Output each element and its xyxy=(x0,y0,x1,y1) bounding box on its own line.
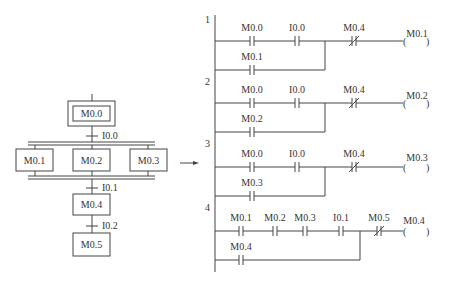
rung-number: 1 xyxy=(205,14,210,25)
branch-label: M0.3 xyxy=(241,177,262,188)
coil-label: M0.1 xyxy=(406,28,427,39)
sfc-to-ladder-diagram: M0.0 I0.0 M0.1 M0.2 M0.3 I0.1 M0.4 I0.2 … xyxy=(0,0,449,283)
nc-contact-label: M0.5 xyxy=(368,212,389,223)
coil-label: M0.2 xyxy=(406,90,427,101)
contact-label: I0.0 xyxy=(289,148,305,159)
coil-open: ( xyxy=(403,162,407,174)
branch-label: M0.1 xyxy=(241,51,262,62)
step-label: M0.3 xyxy=(138,155,159,166)
coil-open: ( xyxy=(403,226,407,238)
nc-contact-label: M0.4 xyxy=(343,84,364,95)
contact-label: M0.0 xyxy=(241,22,262,33)
coil-close: ) xyxy=(426,162,429,174)
rung-2: 2 M0.0 I0.0 M0.4 ( ) M0.2 M0.2 xyxy=(205,76,429,137)
nc-contact-label: M0.4 xyxy=(343,22,364,33)
contact-label: M0.3 xyxy=(294,212,315,223)
branch-label: M0.2 xyxy=(241,113,262,124)
rung-number: 3 xyxy=(205,138,210,149)
ladder-diagram: 1 M0.0 I0.0 M0.4 ( ) M0.1 M0.1 2 xyxy=(205,14,429,272)
contact-label: I0.0 xyxy=(289,22,305,33)
rung-3: 3 M0.0 I0.0 M0.4 ( ) M0.3 M0.3 xyxy=(205,138,429,201)
step-label: M0.1 xyxy=(24,155,45,166)
contact-label: M0.1 xyxy=(230,212,251,223)
transition-label: I0.1 xyxy=(102,182,118,193)
contact-label: M0.0 xyxy=(241,84,262,95)
contact-label: M0.2 xyxy=(264,212,285,223)
arrow-right-icon xyxy=(180,161,199,165)
transition-label: I0.0 xyxy=(102,130,118,141)
contact-label: I0.0 xyxy=(289,84,305,95)
step-label: M0.5 xyxy=(81,239,102,250)
initial-step-label: M0.0 xyxy=(81,108,102,119)
transition-label: I0.2 xyxy=(102,220,118,231)
rung-number: 2 xyxy=(205,76,210,87)
coil-close: ) xyxy=(426,226,429,238)
rung-number: 4 xyxy=(205,202,210,213)
contact-label: I0.1 xyxy=(333,212,349,223)
step-label: M0.4 xyxy=(81,199,102,210)
rung-4: 4 M0.1 M0.2 M0.3 I0.1 M0.5 ( ) M0.4 M0.4 xyxy=(205,202,429,265)
coil-label: M0.4 xyxy=(403,215,424,226)
nc-contact-label: M0.4 xyxy=(343,148,364,159)
step-label: M0.2 xyxy=(81,155,102,166)
contact-label: M0.0 xyxy=(241,148,262,159)
coil-label: M0.3 xyxy=(406,152,427,163)
sfc-chart: M0.0 I0.0 M0.1 M0.2 M0.3 I0.1 M0.4 I0.2 … xyxy=(16,94,167,256)
branch-label: M0.4 xyxy=(230,241,251,252)
rung-1: 1 M0.0 I0.0 M0.4 ( ) M0.1 M0.1 xyxy=(205,14,429,75)
